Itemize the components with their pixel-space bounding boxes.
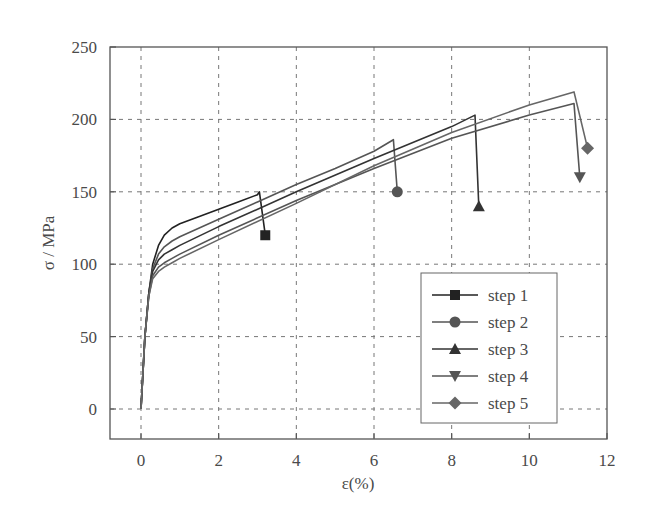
series-line bbox=[141, 140, 397, 409]
y-tick-label: 250 bbox=[72, 38, 98, 57]
x-tick-labels: 024681012 bbox=[137, 451, 616, 470]
stress-strain-chart: 024681012 050100150200250 ε(%) σ / MPa s… bbox=[0, 0, 648, 523]
y-tick-label: 0 bbox=[89, 400, 98, 419]
legend-label: step 5 bbox=[488, 394, 528, 413]
x-axis-label: ε(%) bbox=[342, 474, 375, 493]
square-marker-icon bbox=[260, 230, 270, 240]
x-tick-label: 12 bbox=[599, 451, 616, 470]
y-tick-label: 50 bbox=[80, 328, 97, 347]
series-2 bbox=[141, 140, 403, 409]
circle-marker-icon bbox=[392, 186, 403, 197]
x-tick-label: 6 bbox=[370, 451, 379, 470]
y-axis-label: σ / MPa bbox=[39, 215, 58, 270]
y-tick-label: 100 bbox=[72, 255, 98, 274]
square-marker-icon bbox=[450, 290, 460, 300]
x-tick-label: 8 bbox=[447, 451, 456, 470]
y-tick-labels: 050100150200250 bbox=[72, 38, 98, 419]
x-tick-label: 0 bbox=[137, 451, 146, 470]
series-line bbox=[141, 192, 265, 409]
x-tick-label: 10 bbox=[521, 451, 538, 470]
diamond-marker-icon bbox=[581, 142, 594, 155]
legend-label: step 2 bbox=[488, 313, 528, 332]
y-tick-label: 150 bbox=[72, 183, 98, 202]
legend-label: step 3 bbox=[488, 340, 528, 359]
y-tick-label: 200 bbox=[72, 110, 98, 129]
circle-marker-icon bbox=[450, 317, 461, 328]
legend-label: step 4 bbox=[488, 367, 529, 386]
legend: step 1step 2step 3step 4step 5 bbox=[421, 273, 557, 423]
triangle-up-marker-icon bbox=[473, 200, 485, 211]
legend-label: step 1 bbox=[488, 286, 528, 305]
triangle-down-marker-icon bbox=[574, 172, 586, 183]
x-tick-label: 4 bbox=[292, 451, 301, 470]
x-tick-label: 2 bbox=[214, 451, 223, 470]
